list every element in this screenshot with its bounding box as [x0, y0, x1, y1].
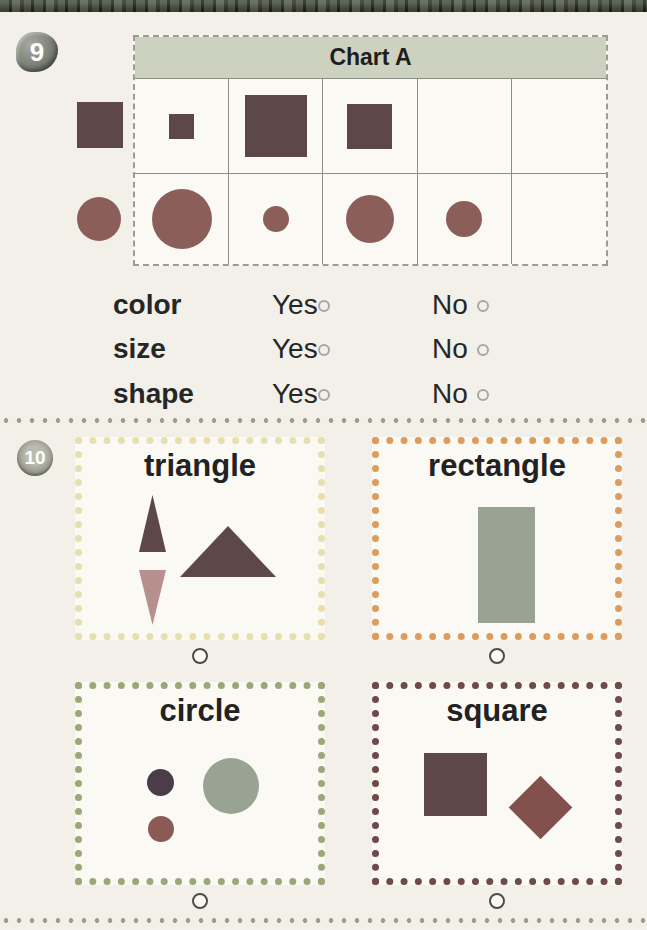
no-label: No: [432, 289, 468, 321]
answer-radio-rectangle[interactable]: [489, 648, 505, 664]
no-radio-color[interactable]: [477, 300, 489, 312]
decorative-top-border: [0, 0, 647, 12]
chart-cell: [323, 79, 417, 174]
answer-box-title-triangle: triangle: [82, 448, 318, 484]
q9-question-rows: colorYesNosizeYesNoshapeYesNo: [113, 289, 513, 429]
yes-radio-color[interactable]: [318, 300, 330, 312]
rect-shape: [347, 104, 392, 149]
chart-cell: [135, 174, 229, 264]
circle-shape: [446, 201, 482, 237]
bottom-separator: [0, 917, 647, 924]
circle-shape: [152, 189, 212, 249]
circle-shape: [346, 195, 394, 243]
no-label: No: [432, 378, 468, 410]
tri-down-shape: [139, 570, 166, 625]
answer-radio-square[interactable]: [489, 893, 505, 909]
answer-box-title-circle: circle: [82, 693, 318, 729]
worksheet-page: 9 Chart A colorYesNosizeYesNoshapeYesNo …: [0, 0, 647, 930]
circle-shape: [263, 206, 289, 232]
chart-cell: [418, 174, 512, 264]
q9-row-color: colorYesNo: [113, 289, 513, 323]
chart-a-title: Chart A: [329, 44, 411, 71]
q9-label-shape: shape: [113, 378, 194, 410]
q9-label-color: color: [113, 289, 181, 321]
chart-cell: [135, 79, 229, 174]
answer-radio-circle[interactable]: [192, 893, 208, 909]
question-10-badge: 10: [17, 440, 53, 476]
chart-cell: [418, 79, 512, 174]
yes-radio-shape[interactable]: [318, 389, 330, 401]
tri-up-shape: [180, 526, 276, 577]
answer-box-title-rectangle: rectangle: [379, 448, 615, 484]
yes-label: Yes: [272, 333, 318, 365]
question-10-number: 10: [24, 447, 45, 469]
question-9-badge: 9: [16, 32, 58, 72]
rect-shape: [424, 753, 487, 816]
diamond-shape: [509, 776, 573, 840]
circle-shape: [148, 816, 174, 842]
yes-label: Yes: [272, 378, 318, 410]
yes-radio-size[interactable]: [318, 344, 330, 356]
no-radio-shape[interactable]: [477, 389, 489, 401]
q9-row-size: sizeYesNo: [113, 333, 513, 367]
no-label: No: [432, 333, 468, 365]
tri-up-shape: [139, 495, 166, 552]
chart-row-label-square: [77, 102, 123, 148]
chart-cell: [512, 174, 606, 264]
rect-shape: [478, 507, 535, 623]
answer-box-triangle: triangle: [75, 437, 325, 640]
circle-shape: [147, 769, 174, 796]
yes-label: Yes: [272, 289, 318, 321]
answer-box-title-square: square: [379, 693, 615, 729]
no-radio-size[interactable]: [477, 344, 489, 356]
q9-label-size: size: [113, 333, 166, 365]
answer-box-circle: circle: [75, 682, 325, 885]
question-9-number: 9: [30, 37, 44, 68]
answer-box-rectangle: rectangle: [372, 437, 622, 640]
chart-row-label-circle: [77, 197, 121, 241]
chart-cell: [229, 79, 323, 174]
circle-shape: [203, 758, 259, 814]
chart-a-header: Chart A: [135, 37, 606, 79]
chart-cell: [512, 79, 606, 174]
answer-box-square: square: [372, 682, 622, 885]
rect-shape: [245, 95, 307, 157]
section-separator: [0, 417, 647, 424]
chart-cell: [229, 174, 323, 264]
answer-radio-triangle[interactable]: [192, 648, 208, 664]
chart-cell: [323, 174, 417, 264]
chart-a-table: Chart A: [133, 35, 608, 266]
chart-a-grid: [135, 79, 606, 264]
rect-shape: [169, 114, 194, 139]
q9-row-shape: shapeYesNo: [113, 378, 513, 412]
